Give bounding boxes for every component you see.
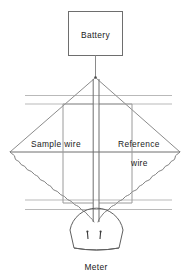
meter-needle-right xyxy=(100,232,101,239)
battery-label: Battery xyxy=(81,30,110,40)
reference-wire-label-line1: Reference xyxy=(118,139,160,149)
meter-label: Meter xyxy=(84,262,107,272)
reference-cell-bracket xyxy=(99,104,132,203)
meter-needle-left-tip xyxy=(86,231,88,233)
meter-needles xyxy=(86,231,101,240)
sample-cell-bracket xyxy=(63,104,93,203)
schematic-canvas: Battery Sample wire Reference wire Meter xyxy=(0,0,190,278)
sample-wire-label: Sample wire xyxy=(31,139,81,149)
wire-bridge-schematic-figure: Battery Sample wire Reference wire Meter xyxy=(0,0,190,278)
meter-scale-arc xyxy=(74,248,119,250)
sample-wire-coil-path xyxy=(10,152,94,222)
reference-wire-label-line2: wire xyxy=(130,158,148,168)
meter-body xyxy=(70,208,123,250)
meter-needle-right-tip xyxy=(100,231,102,233)
meter-needle-left xyxy=(87,232,88,239)
